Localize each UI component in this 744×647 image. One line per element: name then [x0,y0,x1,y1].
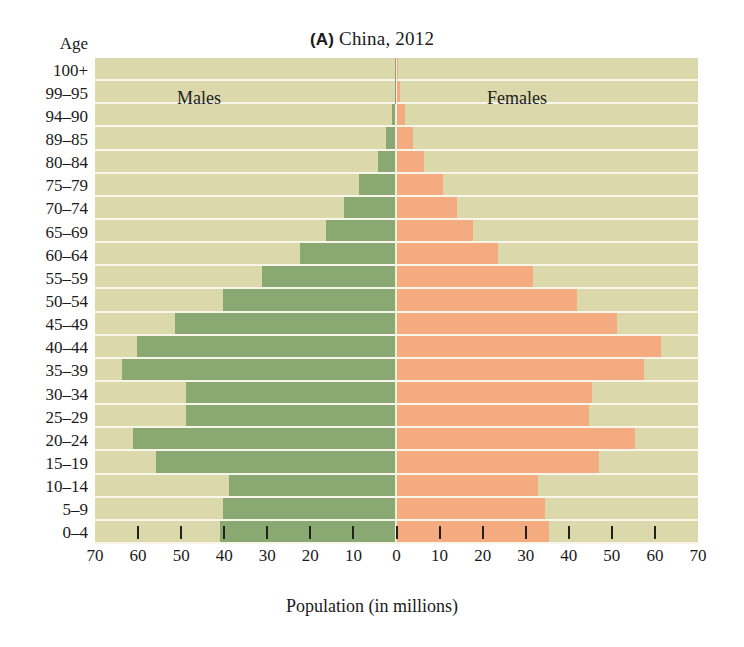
x-axis-tick-label: 50 [161,546,201,566]
x-axis-tick-label: 40 [204,546,244,566]
bar-female [397,197,457,218]
bar-male [186,382,397,403]
x-axis-tick [180,526,182,539]
x-axis-tick-label: 10 [420,546,460,566]
x-axis: 70605040302010010203040506070 [95,544,698,592]
plot-area: Males Females [95,58,698,544]
x-axis-tick [223,526,225,539]
bar-female [397,405,589,426]
bar-female [397,336,662,357]
bar-female [397,428,636,449]
legend-label-females: Females [487,88,547,109]
y-axis-tick-label: 5–9 [0,501,88,518]
x-axis-tick [309,526,311,539]
y-axis-title: Age [0,34,88,54]
bar-male [133,428,397,449]
bar-male [344,197,397,218]
bar-female [397,451,599,472]
x-axis-tick [352,526,354,539]
x-axis-tick-label: 30 [506,546,546,566]
y-axis-tick-label: 30–34 [0,386,88,403]
bar-male [223,289,396,310]
y-axis-tick-label: 15–19 [0,455,88,472]
bar-male [359,174,396,195]
zero-axis-line-top [395,58,396,104]
y-axis-tick-label: 50–54 [0,293,88,310]
pyramid-row [95,313,698,336]
pyramid-row [95,174,698,197]
population-pyramid-figure: (A) China, 2012 Age 100+99–9594–9089–858… [0,0,744,647]
x-axis-tick [482,526,484,539]
pyramid-row [95,451,698,474]
bar-female [397,475,538,496]
y-axis-tick-label: 45–49 [0,316,88,333]
bar-female [397,81,401,102]
bar-female [397,127,413,148]
legend-label-males: Males [177,88,221,109]
bar-female [397,151,424,172]
y-axis-tick-label: 60–64 [0,247,88,264]
chart-title-text: China, 2012 [339,28,434,49]
y-axis-tick-label: 94–90 [0,108,88,125]
y-axis-tick-label: 55–59 [0,270,88,287]
bar-male [262,266,397,287]
x-axis-tick-label: 10 [333,546,373,566]
bar-female [397,174,444,195]
y-axis-tick-label: 99–95 [0,85,88,102]
bar-male [156,451,396,472]
x-axis-tick [439,526,441,539]
pyramid-row [95,197,698,220]
x-axis-tick-label: 20 [463,546,503,566]
pyramid-row [95,243,698,266]
pyramid-row [95,359,698,382]
pyramid-row [95,428,698,451]
x-axis-tick-label: 60 [635,546,675,566]
pyramid-row [95,405,698,428]
pyramid-row [95,498,698,521]
pyramid-row [95,151,698,174]
y-axis-tick-label: 100+ [0,62,88,79]
x-axis-tick [611,526,613,539]
bar-female [397,313,618,334]
y-axis-tick-labels: 100+99–9594–9089–8580–8475–7970–7465–696… [0,58,88,544]
bar-male [326,220,396,241]
bar-male [229,475,397,496]
bar-male [186,405,397,426]
x-axis-tick-label: 40 [549,546,589,566]
x-axis-tick-label: 70 [678,546,718,566]
y-axis-tick-label: 10–14 [0,478,88,495]
pyramid-row [95,127,698,150]
x-axis-tick [525,526,527,539]
y-axis-tick-label: 0–4 [0,524,88,541]
x-axis-tick [137,526,139,539]
pyramid-row [95,220,698,243]
bar-male [378,151,397,172]
x-axis-tick-label: 30 [247,546,287,566]
bar-female [397,220,473,241]
bar-female [397,289,577,310]
y-axis-tick-label: 80–84 [0,154,88,171]
bar-female [397,359,645,380]
pyramid-row [95,336,698,359]
x-axis-tick [568,526,570,539]
x-axis-tick-label: 20 [290,546,330,566]
x-axis-tick [266,526,268,539]
y-axis-tick-label: 89–85 [0,131,88,148]
x-axis-tick-label: 60 [118,546,158,566]
y-axis-tick-label: 35–39 [0,362,88,379]
y-axis-tick-label: 20–24 [0,432,88,449]
bar-male [220,521,397,542]
y-axis-tick-label: 70–74 [0,200,88,217]
y-axis-tick-label: 65–69 [0,224,88,241]
pyramid-row [95,382,698,405]
bar-male [300,243,396,264]
pyramid-row [95,475,698,498]
bar-female [397,243,498,264]
x-axis-tick-label: 0 [377,546,417,566]
y-axis-tick-label: 25–29 [0,409,88,426]
page-title: (A) China, 2012 [0,28,744,50]
x-axis-title: Population (in millions) [0,596,744,617]
y-axis-tick-label: 75–79 [0,177,88,194]
bar-male [122,359,397,380]
pyramid-row [95,266,698,289]
